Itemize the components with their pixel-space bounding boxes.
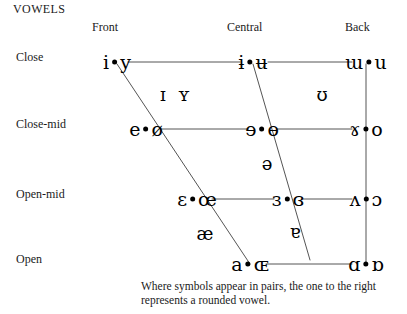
vowel-symbol-mid-central: ə [262, 154, 273, 173]
vowel-quadrilateral-grid [0, 0, 407, 314]
vowel-symbol-rounded: ɵ [264, 120, 278, 139]
vowel-node-openmid-central: ɜ ɞ [272, 190, 304, 209]
vowel-symbol-near-close-front-rounded: ʏ [178, 85, 190, 104]
column-header-central: Central [227, 20, 262, 35]
vowel-symbol-rounded: œ [195, 190, 217, 209]
vowel-symbol-unrounded: ɛ [177, 190, 190, 209]
vowel-symbol-unrounded: ʌ [350, 190, 364, 209]
row-label-open: Open [16, 252, 42, 267]
row-label-close-mid: Close-mid [16, 117, 66, 132]
vowel-node-closemid-central: ɘ ɵ [245, 120, 279, 139]
vowel-symbol-unrounded: e [129, 120, 143, 139]
vowel-symbol-rounded: u [371, 53, 386, 72]
vowel-chart-page: VOWELS Front Central Back Close Close-mi… [0, 0, 407, 314]
vowel-node-closemid-back: ɤ o [349, 120, 382, 139]
vowel-node-close-back: ɯ u [345, 53, 386, 72]
vowel-symbol-near-close-back-rounded: ʊ [316, 85, 327, 104]
vowel-symbol-unrounded: ɤ [349, 120, 363, 139]
vowel-symbol-rounded: o [368, 120, 382, 139]
vowel-node-openmid-front: ɛ œ [177, 190, 217, 209]
vowel-symbol-unrounded: ɨ [238, 53, 247, 72]
vowel-symbol-rounded: ɶ [251, 255, 269, 274]
vowel-symbol-rounded: ʉ [252, 53, 267, 72]
vowel-symbol-near-open-front: æ [197, 224, 214, 243]
vowel-node-openmid-back: ʌ ɔ [350, 190, 382, 209]
vowel-symbol-near-open-central: ɐ [290, 222, 301, 241]
vowel-symbol-rounded: ɒ [369, 255, 384, 274]
vowel-node-close-central: ɨ ʉ [238, 53, 267, 72]
vowel-node-closemid-front: e ø [129, 120, 163, 139]
vowel-node-close-front: i y [103, 53, 131, 72]
vowel-symbol-unrounded: a [231, 255, 245, 274]
vowel-symbol-unrounded: ɯ [345, 53, 366, 72]
vowel-symbol-rounded: y [117, 53, 131, 72]
row-label-close: Close [16, 50, 43, 65]
vowel-node-open-back: ɑ ɒ [348, 255, 383, 274]
vowel-symbol-rounded: ɞ [290, 190, 305, 209]
vowel-node-open-front: a ɶ [231, 255, 268, 274]
vowel-symbol-unrounded: ɜ [272, 190, 285, 209]
column-header-back: Back [345, 20, 370, 35]
row-label-open-mid: Open-mid [16, 187, 65, 202]
vowel-symbol-rounded: ø [148, 120, 162, 139]
column-header-front: Front [92, 20, 118, 35]
vowel-symbol-rounded: ɔ [369, 190, 383, 209]
vowel-symbol-near-close-front-unrounded: ɪ [160, 85, 166, 104]
vowel-symbol-unrounded: i [103, 53, 112, 72]
vowel-symbol-unrounded: ɑ [348, 255, 363, 274]
vowel-symbol-unrounded: ɘ [245, 120, 259, 139]
chart-caption: Where symbols appear in pairs, the one t… [141, 280, 391, 307]
